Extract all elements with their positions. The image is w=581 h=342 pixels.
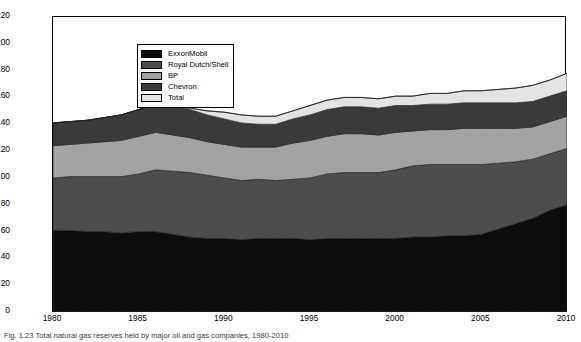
y-axis-tick-label: 200 <box>0 38 10 46</box>
legend-item-label: Total <box>168 94 184 102</box>
y-axis-tick-label: 20 <box>0 279 10 287</box>
figure-container: Billions of cubic feet 02040608010012014… <box>0 0 581 342</box>
y-axis-tick-label: 100 <box>0 172 10 180</box>
x-axis-tick-label: 1985 <box>108 314 168 322</box>
legend-item[interactable]: Chevron <box>141 82 228 92</box>
y-axis-tick-label: 0 <box>0 306 10 314</box>
x-axis-tick-label: 1980 <box>22 314 82 322</box>
y-axis-tick-label: 140 <box>0 118 10 126</box>
y-axis-tick-label: 120 <box>0 145 10 153</box>
legend-swatch-icon <box>141 94 162 102</box>
y-axis-tick-label: 160 <box>0 91 10 99</box>
legend-item[interactable]: BP <box>141 71 228 81</box>
figure-caption: Fig. 1.23 Total natural gas reserves hel… <box>4 331 579 342</box>
legend-item[interactable]: ExxonMobil <box>141 49 228 59</box>
legend-swatch-icon <box>141 72 162 80</box>
legend-item-label: Chevron <box>168 83 197 91</box>
y-axis-tick-label: 60 <box>0 226 10 234</box>
legend-swatch-icon <box>141 61 162 69</box>
stacked-area-chart <box>53 17 567 312</box>
x-axis-tick-label: 2010 <box>536 314 581 322</box>
x-axis-tick-label: 2000 <box>365 314 425 322</box>
y-axis-tick-label: 40 <box>0 252 10 260</box>
legend-item[interactable]: Total <box>141 93 228 103</box>
x-axis-tick-label: 2005 <box>450 314 510 322</box>
x-axis-tick-label: 1990 <box>193 314 253 322</box>
legend-item-label: Royal Dutch/Shell <box>168 61 228 69</box>
legend-swatch-icon <box>141 83 162 91</box>
y-axis-tick-label: 80 <box>0 199 10 207</box>
x-axis-tick-label: 1995 <box>279 314 339 322</box>
y-axis-tick-label: 220 <box>0 11 10 19</box>
chart-legend: ExxonMobilRoyal Dutch/ShellBPChevronTota… <box>137 44 234 108</box>
legend-item-label: ExxonMobil <box>168 50 207 58</box>
plot-area: ExxonMobilRoyal Dutch/ShellBPChevronTota… <box>52 16 566 311</box>
y-axis-tick-label: 180 <box>0 65 10 73</box>
legend-item-label: BP <box>168 72 178 80</box>
legend-item[interactable]: Royal Dutch/Shell <box>141 60 228 70</box>
legend-swatch-icon <box>141 50 162 58</box>
